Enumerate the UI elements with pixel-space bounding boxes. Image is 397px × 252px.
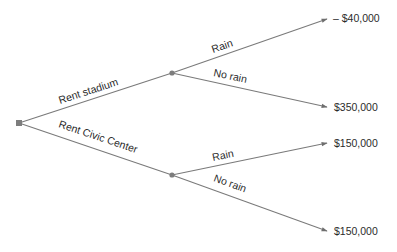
edge-civic-rain xyxy=(172,143,327,175)
edge-stadium-rain xyxy=(172,19,327,73)
decision-tree: Rent stadium Rent Civic Center Rain No r… xyxy=(0,0,397,252)
payoff-civic-no-rain: $150,000 xyxy=(334,225,378,237)
payoff-stadium-rain: – $40,000 xyxy=(333,12,380,24)
payoff-stadium-no-rain: $350,000 xyxy=(334,101,378,113)
edge-stadium-no-rain xyxy=(172,73,327,107)
square-decision-node-icon xyxy=(16,120,22,126)
edge-civic-no-rain xyxy=(172,175,327,231)
chance-node-civic-center xyxy=(169,172,174,177)
edge-rent-stadium xyxy=(19,73,172,123)
outcome-label-civic-rain: Rain xyxy=(211,147,235,163)
outcome-label-stadium-no-rain: No rain xyxy=(213,66,249,85)
chance-node-stadium xyxy=(169,70,174,75)
branch-label-rent-stadium: Rent stadium xyxy=(57,75,120,106)
payoff-civic-rain: $150,000 xyxy=(334,137,378,149)
